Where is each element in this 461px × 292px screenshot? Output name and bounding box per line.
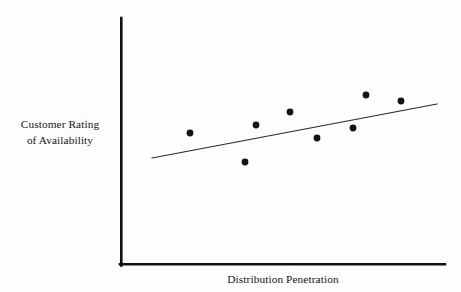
data-point — [242, 159, 249, 166]
y-axis-label-line-2: of Availability — [8, 133, 112, 149]
data-point — [398, 98, 405, 105]
data-point — [187, 130, 194, 137]
data-point — [363, 92, 370, 99]
y-axis-label-line-1: Customer Rating — [8, 117, 112, 133]
y-axis-label: Customer Rating of Availability — [8, 117, 112, 148]
data-point — [314, 135, 321, 142]
data-point — [350, 125, 357, 132]
x-axis-label: Distribution Penetration — [120, 272, 446, 286]
data-point — [253, 122, 260, 129]
scatter-plot-figure: Customer Rating of Availability Distribu… — [0, 0, 461, 292]
trend-line — [152, 104, 437, 158]
data-point — [287, 109, 294, 116]
